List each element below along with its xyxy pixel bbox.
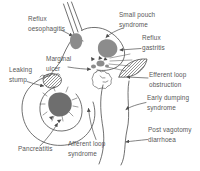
leader-efferent-loop-obstruction	[127, 77, 148, 78]
label-marginal-ulcer: Marginal ulcer	[46, 54, 71, 73]
marginal-ulcer-spot	[97, 61, 105, 67]
label-reflux-gastritis: Reflux gastritis	[142, 33, 165, 52]
label-pancreatitis: Pancreatitis	[18, 144, 53, 154]
leader-small-pouch-syndrome	[106, 28, 123, 38]
marginal-ulcer-spot	[105, 64, 109, 67]
label-efferent-loop-obstruction: Efferent loop obstruction	[149, 70, 186, 89]
leader-marginal-ulcer	[68, 67, 91, 69]
leader-early-dumping-syndrome	[126, 103, 146, 110]
leader-reflux-gastritis	[120, 49, 141, 51]
reflux-oesophagitis-shade	[70, 33, 82, 49]
leader-lines	[27, 28, 148, 146]
label-leaking-stump: Leaking stump	[9, 65, 32, 84]
label-small-pouch-syndrome: Small pouch syndrome	[119, 10, 155, 29]
pancreas-shade	[48, 93, 71, 117]
label-early-dumping-syndrome: Early dumping syndrome	[147, 93, 189, 112]
lesion-shading	[70, 33, 117, 68]
efferent-loop-hatch	[119, 59, 147, 77]
oesophagus-lines	[64, 2, 83, 34]
marginal-ulcer-spot	[91, 65, 96, 69]
label-reflux-oesophagitis: Reflux oesophagitis	[28, 14, 65, 33]
label-post-vagotomy-diarrhoea: Post vagotomy diarrhoea	[148, 125, 192, 144]
leader-post-vagotomy-diarrhoea	[126, 140, 148, 143]
diagram-canvas: Reflux oesophagitis Small pouch syndrome…	[0, 0, 200, 171]
leaking-stump-hatch	[43, 74, 61, 88]
label-afferent-loop-syndrome: Afferent loop syndrome	[68, 139, 105, 158]
reflux-gastritis-shade	[98, 39, 118, 57]
